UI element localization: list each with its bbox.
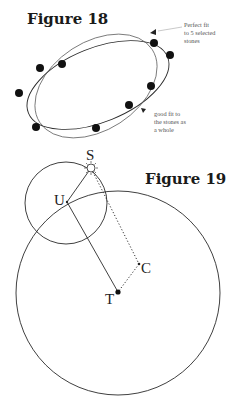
point-U [66,201,68,203]
point-C [138,263,141,266]
arrowhead-icon [141,108,146,113]
small-circle [25,162,107,244]
stone [15,89,23,97]
label-U: U [54,192,65,208]
stone [150,39,158,47]
stone [58,60,66,68]
annotation-pointer-line [158,27,182,31]
stone [166,51,174,59]
label-T: T [105,291,114,307]
line-S-C [93,172,139,264]
line-C-T [118,264,139,292]
figure-19: Figure 19 [16,147,226,395]
stones [15,39,174,132]
figure-18: Figure 18 Perfect fit to 5 selected ston… [15,10,217,159]
figure-18-title: Figure 18 [27,10,108,28]
arrowhead-icon [150,29,156,35]
stone [147,82,155,90]
annotation-perfect-fit: Perfect fit to 5 selected stones [184,21,217,44]
annotation-good-fit: good fit to the stones as a whole [154,110,187,133]
line-U-S [67,168,91,202]
diagram-canvas: Figure 18 Perfect fit to 5 selected ston… [0,0,233,406]
figure-19-title: Figure 19 [145,170,226,188]
line-U-T [67,202,118,292]
label-C: C [141,260,151,276]
label-S: S [86,147,94,163]
sun-icon [84,161,98,175]
point-T [115,289,120,294]
stone [32,123,40,131]
stone [125,101,133,109]
stone [92,124,100,132]
stone [36,64,44,72]
